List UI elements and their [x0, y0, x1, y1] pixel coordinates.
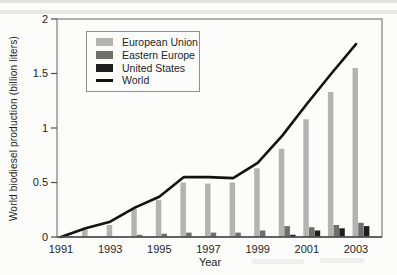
legend-swatch-european-union — [96, 38, 113, 46]
bar-european-union-1998 — [230, 183, 236, 238]
bar-european-union-1995 — [156, 200, 162, 237]
bar-european-union-2003 — [353, 68, 359, 237]
x-tick-label: 1999 — [245, 243, 269, 255]
legend-item-world: World — [96, 75, 193, 86]
y-tick-label: 0.5 — [33, 176, 48, 188]
bar-european-union-2000 — [279, 149, 285, 237]
bar-european-union-1999 — [254, 168, 260, 237]
x-tick-label: 1991 — [49, 243, 73, 255]
legend-swatch-united-states — [96, 64, 113, 72]
bar-eastern-europe-1999 — [260, 231, 266, 238]
bar-european-union-2002 — [328, 92, 334, 237]
y-tick-label: 0 — [42, 231, 48, 243]
bar-eastern-europe-2002 — [334, 225, 340, 237]
legend-swatch-world-line — [96, 79, 113, 82]
x-tick-label: 1995 — [147, 243, 171, 255]
legend: European Union Eastern Europe United Sta… — [86, 31, 200, 92]
bar-united-states-2003 — [364, 226, 370, 237]
y-tick-label: 1 — [42, 122, 48, 134]
bar-european-union-1994 — [131, 209, 137, 237]
legend-swatch-eastern-europe — [96, 51, 113, 59]
x-tick-label: 2001 — [295, 243, 319, 255]
legend-label-european-union: European Union — [122, 37, 198, 48]
bar-eastern-europe-2000 — [284, 226, 290, 237]
x-tick-label: 2003 — [344, 243, 368, 255]
biodiesel-production-figure: 00.511.521991199319951997199920012003 Wo… — [0, 0, 397, 275]
bar-united-states-2001 — [315, 231, 321, 238]
bar-european-union-1996 — [180, 183, 186, 238]
legend-item-european-union: European Union — [96, 37, 193, 48]
bar-united-states-2002 — [339, 228, 345, 237]
legend-item-united-states: United States — [96, 63, 193, 74]
bar-european-union-1993 — [107, 225, 113, 237]
x-tick-label: 1993 — [98, 243, 122, 255]
legend-label-world: World — [122, 75, 149, 86]
bar-eastern-europe-2001 — [309, 227, 315, 237]
y-tick-label: 1.5 — [33, 67, 48, 79]
y-tick-label: 2 — [42, 13, 48, 25]
y-axis-title: World biodiesel production (billion lite… — [8, 19, 21, 239]
bar-eastern-europe-2003 — [358, 223, 364, 237]
x-axis-title: Year — [199, 256, 221, 268]
legend-item-eastern-europe: Eastern Europe — [96, 50, 193, 61]
legend-label-united-states: United States — [122, 63, 185, 74]
bar-european-union-2001 — [303, 119, 309, 237]
bar-european-union-1997 — [205, 184, 211, 237]
x-tick-label: 1997 — [196, 243, 220, 255]
legend-label-eastern-europe: Eastern Europe — [122, 50, 195, 61]
